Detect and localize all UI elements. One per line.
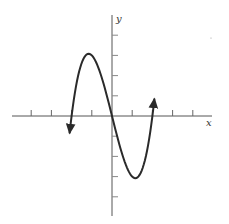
stray-dot [210, 37, 211, 38]
y-axis-label: y [115, 13, 122, 24]
x-axis-label: x [206, 117, 212, 128]
cubic-function-graph: x y [0, 0, 229, 224]
